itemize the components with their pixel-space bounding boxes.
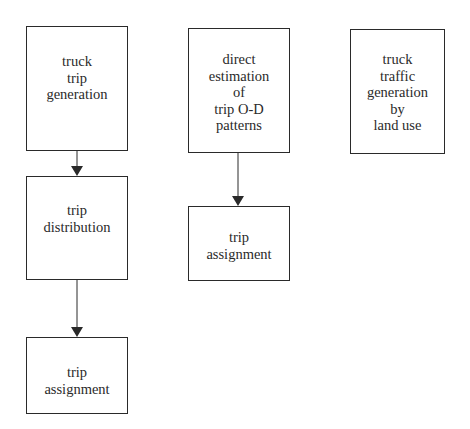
arrow-down-icon — [71, 151, 83, 176]
arrow-down-icon — [232, 153, 244, 206]
arrow-down-icon — [71, 280, 83, 337]
connector-arrows — [0, 0, 470, 429]
flowchart-canvas: truck trip generation trip distribution … — [0, 0, 470, 429]
